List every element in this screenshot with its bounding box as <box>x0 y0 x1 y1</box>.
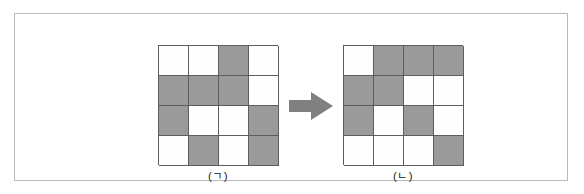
grid-cell <box>219 46 249 76</box>
figure-root: (ㄱ) (ㄴ) <box>0 0 584 194</box>
grid-cell <box>249 46 279 76</box>
grid-b <box>343 45 463 165</box>
grid-cell <box>189 46 219 76</box>
grid-cell <box>374 46 404 76</box>
grid-cell <box>189 106 219 136</box>
arrow-right-icon <box>287 90 335 122</box>
grid-cell <box>189 76 219 106</box>
grid-b-label: (ㄴ) <box>343 169 463 183</box>
grid-cell <box>404 76 434 106</box>
grid-cell <box>159 136 189 166</box>
grid-cell <box>434 76 464 106</box>
grid-panel-a: (ㄱ) <box>158 45 278 165</box>
grid-cell <box>374 106 404 136</box>
grid-cell <box>434 46 464 76</box>
figure-frame: (ㄱ) (ㄴ) <box>14 13 568 181</box>
grid-cell <box>344 106 374 136</box>
grid-cell <box>219 76 249 106</box>
grid-cell <box>159 76 189 106</box>
grid-cell <box>249 136 279 166</box>
grid-cell <box>159 106 189 136</box>
grid-cell <box>344 136 374 166</box>
grid-cell <box>344 46 374 76</box>
grid-cell <box>249 106 279 136</box>
grid-a <box>158 45 278 165</box>
grid-cell <box>434 136 464 166</box>
grid-cell <box>344 76 374 106</box>
grid-cell <box>404 46 434 76</box>
grid-cell <box>189 136 219 166</box>
grid-cell <box>404 136 434 166</box>
grid-cell <box>219 106 249 136</box>
grid-cell <box>249 76 279 106</box>
grid-cell <box>434 106 464 136</box>
grid-cell <box>159 46 189 76</box>
grid-cell <box>374 136 404 166</box>
grid-a-label: (ㄱ) <box>158 169 278 183</box>
grid-cell <box>219 136 249 166</box>
grid-cell <box>404 106 434 136</box>
grid-cell <box>374 76 404 106</box>
grid-panel-b: (ㄴ) <box>343 45 463 165</box>
